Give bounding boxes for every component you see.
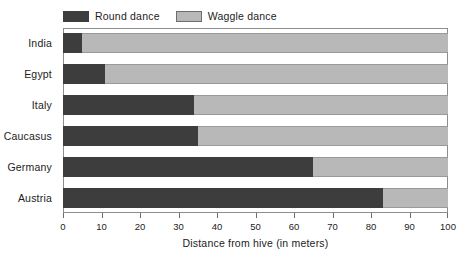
category-label: India (28, 37, 52, 49)
x-axis-tick (410, 213, 411, 218)
x-axis-tick-label: 80 (366, 221, 377, 232)
bar-row (63, 188, 448, 208)
x-axis-tick (371, 213, 372, 218)
category-label: Egypt (24, 68, 52, 80)
bar-segment-waggle-dance (198, 126, 448, 146)
bar-segment-round-dance (63, 126, 198, 146)
x-axis-tick-label: 0 (60, 221, 65, 232)
x-axis-tick (294, 213, 295, 218)
bar-segment-round-dance (63, 33, 82, 53)
bar-row (63, 157, 448, 177)
bar-segment-round-dance (63, 64, 105, 84)
x-axis-tick-label: 90 (404, 221, 415, 232)
bar-segment-waggle-dance (105, 64, 448, 84)
x-axis-tick (217, 213, 218, 218)
x-axis-tick (333, 213, 334, 218)
x-axis-tick-label: 60 (289, 221, 300, 232)
bar-row (63, 33, 448, 53)
legend-item-round-dance[interactable]: Round dance (63, 10, 160, 22)
x-axis-tick (102, 213, 103, 218)
bar-segment-round-dance (63, 157, 313, 177)
bars-layer (63, 28, 448, 213)
bar-segment-waggle-dance (194, 95, 448, 115)
bar-row (63, 95, 448, 115)
bar-row (63, 64, 448, 84)
bar-segment-waggle-dance (383, 188, 448, 208)
bar-segment-round-dance (63, 95, 194, 115)
x-axis-tick-label: 70 (327, 221, 338, 232)
category-label: Italy (32, 99, 52, 111)
category-label: Caucasus (4, 130, 52, 142)
x-axis-tick-label: 40 (212, 221, 223, 232)
x-axis-ticks (63, 213, 448, 221)
legend-item-waggle-dance[interactable]: Waggle dance (176, 10, 277, 22)
category-label: Austria (18, 192, 52, 204)
bar-segment-waggle-dance (82, 33, 448, 53)
x-axis-tick-label: 20 (135, 221, 146, 232)
x-axis-tick (63, 213, 64, 218)
chart-legend: Round dance Waggle dance (63, 8, 277, 24)
legend-label-waggle-dance: Waggle dance (208, 10, 277, 22)
x-axis-title: Distance from hive (in meters) (63, 237, 448, 249)
legend-swatch-waggle-dance (176, 11, 202, 22)
x-axis-tick-label: 100 (440, 221, 456, 232)
bar-segment-waggle-dance (313, 157, 448, 177)
bar-segment-round-dance (63, 188, 383, 208)
x-axis-tick (140, 213, 141, 218)
bar-row (63, 126, 448, 146)
x-axis-tick (447, 213, 448, 218)
stacked-bar-chart: Round dance Waggle dance IndiaEgyptItaly… (0, 0, 475, 257)
x-axis-tick-label: 50 (250, 221, 261, 232)
legend-label-round-dance: Round dance (95, 10, 160, 22)
x-axis-tick (179, 213, 180, 218)
category-label: Germany (7, 161, 52, 173)
category-axis-labels: IndiaEgyptItalyCaucasusGermanyAustria (0, 28, 60, 213)
x-axis-tick-labels: 0102030405060708090100 (63, 221, 448, 235)
x-axis-tick-label: 30 (173, 221, 184, 232)
x-axis-tick (256, 213, 257, 218)
legend-swatch-round-dance (63, 11, 89, 22)
x-axis-tick-label: 10 (96, 221, 107, 232)
